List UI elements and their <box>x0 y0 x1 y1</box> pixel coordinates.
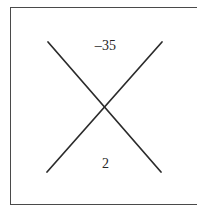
bottom-wedge-value: 2 <box>0 157 197 171</box>
x-diagram-figure: –35 2 <box>0 0 197 217</box>
figure-border-box <box>10 7 197 205</box>
top-wedge-value: –35 <box>0 39 197 53</box>
